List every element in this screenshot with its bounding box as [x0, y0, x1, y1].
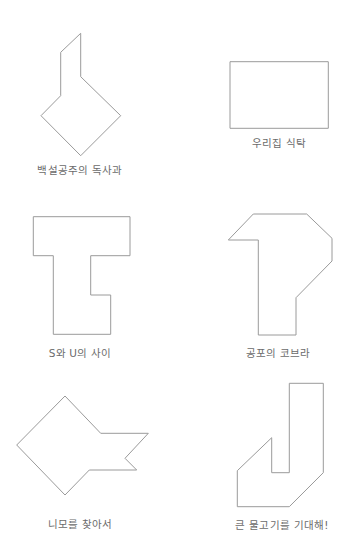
label-snow-white-apple: 백설공주의 독사과	[37, 162, 122, 177]
shape-our-table	[230, 62, 328, 129]
shape-between-s-and-u	[33, 217, 130, 335]
shape-finding-nemo	[17, 396, 149, 495]
label-our-table: 우리집 식탁	[252, 135, 307, 150]
label-expect-big-fish: 큰 물고기를 기대해!	[235, 517, 328, 532]
label-cobra-of-fear: 공포의 코브라	[246, 345, 311, 360]
puzzle-diagram	[0, 0, 355, 556]
label-finding-nemo: 니모를 찾아서	[48, 516, 113, 531]
label-between-s-and-u: S와 U의 사이	[49, 345, 112, 360]
shape-expect-big-fish	[237, 383, 323, 506]
shape-snow-white-apple	[41, 33, 121, 155]
shape-cobra-of-fear	[228, 214, 332, 335]
